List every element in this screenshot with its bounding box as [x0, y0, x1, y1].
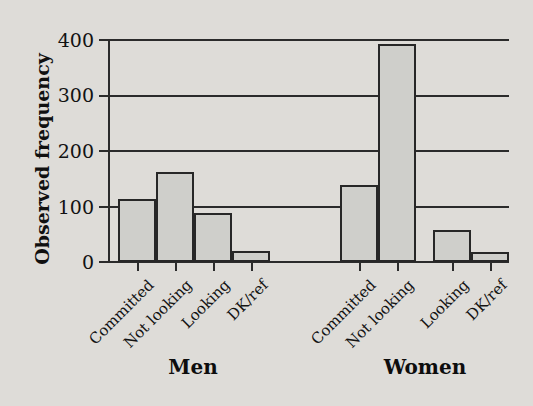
- y-tick-label-200: 200: [46, 140, 94, 162]
- y-tick-label-100: 100: [46, 196, 94, 218]
- x-tick-mark-men-1: [175, 262, 177, 271]
- x-tick-mark-women-1: [397, 262, 399, 271]
- bar-chart: Observed frequency 400 300 200 100 0 Com…: [0, 0, 533, 406]
- bar-women-not-looking: [378, 44, 416, 262]
- x-tick-mark-women-2: [452, 262, 454, 271]
- group-label-women: Women: [370, 355, 480, 379]
- gridline-300: [108, 95, 509, 97]
- x-tick-mark-women-0: [359, 262, 361, 271]
- y-axis-line: [108, 39, 110, 262]
- bar-men-looking: [194, 213, 232, 262]
- x-tick-mark-women-3: [490, 262, 492, 271]
- group-label-men: Men: [143, 355, 243, 379]
- y-tick-mark-400: [99, 39, 108, 41]
- bar-women-committed: [340, 185, 378, 262]
- bar-women-looking: [433, 230, 471, 262]
- y-tick-mark-100: [99, 206, 108, 208]
- y-tick-mark-300: [99, 95, 108, 97]
- y-tick-mark-200: [99, 150, 108, 152]
- gridline-200: [108, 150, 509, 152]
- gridline-400: [108, 39, 509, 41]
- y-tick-label-300: 300: [46, 84, 94, 106]
- x-tick-mark-men-3: [251, 262, 253, 271]
- y-tick-label-0: 0: [46, 251, 94, 273]
- x-tick-mark-men-2: [213, 262, 215, 271]
- x-tick-mark-men-0: [137, 262, 139, 271]
- bar-men-not-looking: [156, 172, 194, 262]
- bar-women-dk-ref: [471, 252, 509, 262]
- bar-men-committed: [118, 199, 156, 262]
- y-tick-label-400: 400: [46, 29, 94, 51]
- bar-men-dk-ref: [232, 251, 270, 262]
